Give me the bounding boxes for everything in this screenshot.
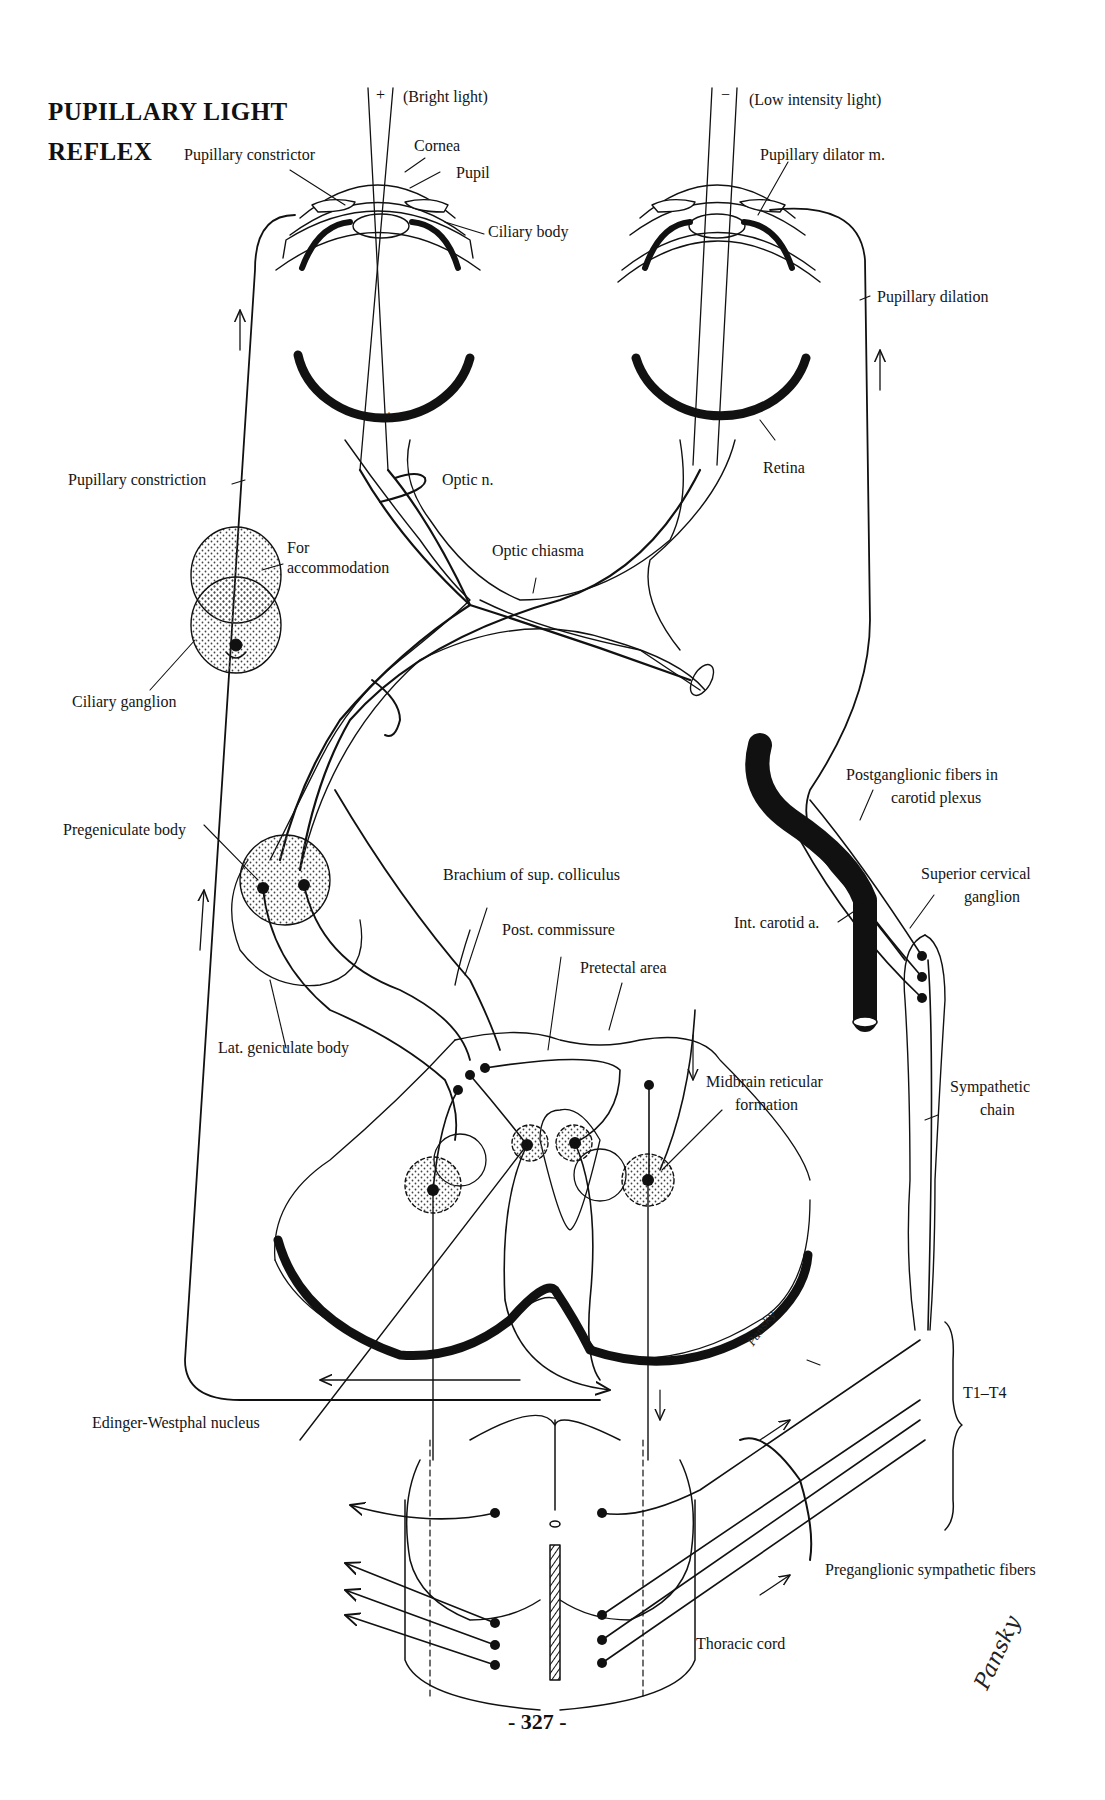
figure-title-line1: PUPILLARY LIGHT [48,97,288,127]
label-pregeniculate-body: Pregeniculate body [63,820,186,840]
bright-light-sign: + [376,86,385,104]
low-light-label: (Low intensity light) [749,90,881,110]
thoracic-cord-section [405,1415,695,1710]
lateral-geniculate-shape [232,835,362,986]
label-preganglionic: Preganglionic sympathetic fibers [825,1560,1036,1580]
label-post-commissure: Post. commissure [502,920,615,940]
label-optic-chiasma: Optic chiasma [492,541,584,561]
pupillary-light-reflex-diagram: + − PUPILLARY LIGHT REFLEX + (Bright lig… [0,0,1105,1800]
optic-nerves-chiasma [270,440,735,870]
label-postganglionic-1: Postganglionic fibers in [846,765,998,785]
label-pupillary-constriction: Pupillary constriction [68,470,206,490]
label-ciliary-ganglion: Ciliary ganglion [72,692,176,712]
label-ciliary-body: Ciliary body [488,222,568,242]
label-superior-cervical-2: ganglion [964,887,1020,907]
page-number: - 327 - [508,1709,567,1735]
label-pupil: Pupil [456,163,490,183]
label-sympathetic-chain-2: chain [980,1100,1015,1120]
parasympathetic-efferent [185,215,600,1400]
low-light-rays [693,88,737,465]
label-postganglionic-2: carotid plexus [891,788,981,808]
label-edinger-westphal: Edinger-Westphal nucleus [92,1413,260,1433]
svg-text:−: − [712,410,720,425]
label-int-carotid: Int. carotid a. [734,913,819,933]
label-sympathetic-chain-1: Sympathetic [950,1077,1030,1097]
bright-light-label: (Bright light) [403,87,488,107]
label-for-accommodation-1: For [287,538,309,558]
label-optic-nerve: Optic n. [442,470,494,490]
diagram-artwork: + − [0,0,1105,1800]
label-pretectal-area: Pretectal area [580,958,667,978]
label-pupillary-dilation: Pupillary dilation [877,287,989,307]
label-for-accommodation-2: accommodation [287,558,389,578]
label-brachium: Brachium of sup. colliculus [443,865,620,885]
label-pupillary-dilator: Pupillary dilator m. [760,145,885,165]
low-light-sign: − [721,86,730,104]
label-cornea: Cornea [414,136,460,156]
label-lat-geniculate: Lat. geniculate body [218,1038,349,1058]
label-pupillary-constrictor: Pupillary constrictor [184,145,315,165]
t1-t4-brace [945,1322,962,1530]
cerebral-peduncle-band [278,1240,808,1361]
label-thoracic-cord: Thoracic cord [696,1634,785,1654]
label-midbrain-reticular-2: formation [735,1095,798,1115]
right-eye-anterior [618,185,820,282]
leader-lines [150,158,938,1365]
label-retina: Retina [763,458,805,478]
label-t1-t4: T1–T4 [963,1383,1007,1403]
svg-text:+: + [385,408,393,423]
figure-title-line2: REFLEX [48,137,152,167]
label-superior-cervical-1: Superior cervical [921,864,1031,884]
label-midbrain-reticular-1: Midbrain reticular [706,1072,823,1092]
